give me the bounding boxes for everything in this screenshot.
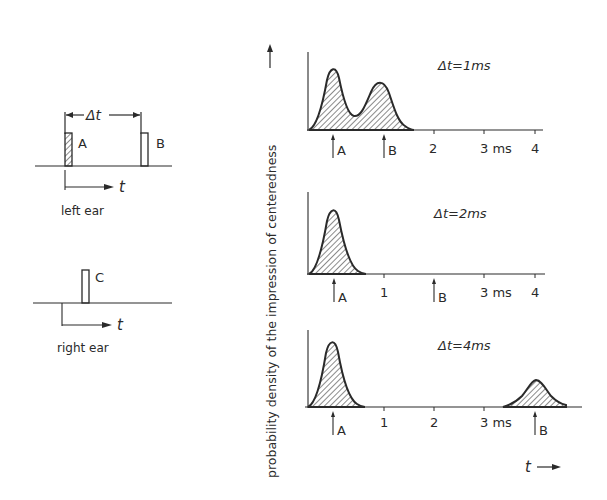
density-curve-b	[503, 380, 566, 407]
marker-a-label: A	[337, 143, 346, 158]
time-label: t	[117, 316, 124, 334]
arrow-left-icon	[66, 112, 73, 118]
left-ear-caption: left ear	[61, 204, 104, 218]
arrow-right-icon	[104, 184, 114, 190]
density-curve-a	[308, 342, 365, 407]
marker-b-label: B	[388, 143, 397, 158]
time-label: t	[119, 178, 126, 196]
pulse-b	[141, 133, 148, 166]
arrow-up-icon	[332, 278, 336, 284]
arrow-right-icon	[102, 322, 112, 328]
pulse-c-label: C	[95, 270, 104, 285]
plot-title: Δt=2ms	[433, 206, 487, 221]
marker-a-label: A	[338, 290, 347, 305]
left-ear-diagram: Δt A B t left ear	[35, 107, 172, 218]
plot-dt-2ms: A B 1 3 ms 4 Δt=2ms	[307, 192, 545, 305]
right-ear-diagram: C t right ear	[33, 270, 172, 355]
density-curve	[309, 69, 414, 130]
pulse-a	[65, 133, 72, 166]
tick-label-1: 1	[380, 415, 388, 430]
plot-title: Δt=4ms	[437, 338, 491, 353]
arrow-right-icon	[133, 112, 140, 118]
arrow-up-icon	[432, 278, 436, 284]
tick-label-3ms: 3 ms	[480, 415, 512, 430]
y-axis-label-group: probability density of the impression of…	[264, 44, 279, 478]
arrow-right-icon	[552, 464, 561, 470]
marker-b-label: B	[438, 290, 447, 305]
plot-dt-4ms: A B 1 2 3 ms Δt=4ms	[305, 330, 582, 438]
tick-label-3ms: 3 ms	[480, 141, 512, 156]
y-axis-label: probability density of the impression of…	[264, 145, 279, 478]
marker-b-label: B	[539, 423, 548, 438]
pulse-b-label: B	[156, 136, 165, 151]
arrow-up-icon	[267, 44, 273, 52]
x-axis-label: t	[525, 458, 532, 476]
tick-label-2: 2	[430, 415, 438, 430]
arrow-up-icon	[331, 411, 335, 417]
tick-label-2: 2	[429, 141, 437, 156]
tick-label-4: 4	[531, 141, 539, 156]
tick-label-4: 4	[531, 285, 539, 300]
density-curve	[309, 210, 366, 274]
tick-label-1: 1	[380, 285, 388, 300]
pulse-a-label: A	[78, 136, 87, 151]
arrow-up-icon	[331, 134, 335, 140]
figure: Δt A B t left ear C t right ear probabil…	[0, 0, 607, 500]
arrow-up-icon	[382, 134, 386, 140]
plot-dt-1ms: A B 2 3 ms 4 Δt=1ms	[307, 52, 543, 158]
tick-label-3ms: 3 ms	[480, 285, 512, 300]
marker-a-label: A	[337, 423, 346, 438]
pulse-c	[82, 270, 89, 303]
delta-t-label: Δt	[85, 107, 102, 123]
arrow-up-icon	[533, 411, 537, 417]
plot-title: Δt=1ms	[437, 58, 491, 73]
x-axis-label-group: t	[525, 458, 561, 476]
right-ear-caption: right ear	[57, 341, 109, 355]
